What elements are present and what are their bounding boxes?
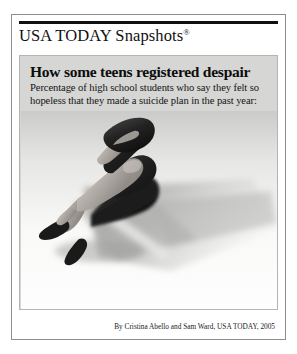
masthead-brand-title: USA TODAY Snapshots® [19, 27, 278, 45]
masthead-divider-rule [19, 21, 278, 24]
headline: How some teens registered despair [30, 63, 270, 80]
usa-today-snapshot-infographic: USA TODAY Snapshots® How some teens regi… [0, 0, 297, 354]
registered-trademark-icon: ® [183, 27, 190, 37]
photo-illustration [21, 111, 278, 310]
masthead: USA TODAY Snapshots® [19, 21, 278, 45]
masthead-brand-text: USA TODAY Snapshots [19, 26, 183, 45]
photo-svg [21, 111, 278, 310]
byline: By Cristina Abello and Sam Ward, USA TOD… [19, 322, 278, 331]
content-panel: How some teens registered despair Percen… [19, 55, 278, 310]
subhead-description: Percentage of high school students who s… [30, 82, 273, 108]
